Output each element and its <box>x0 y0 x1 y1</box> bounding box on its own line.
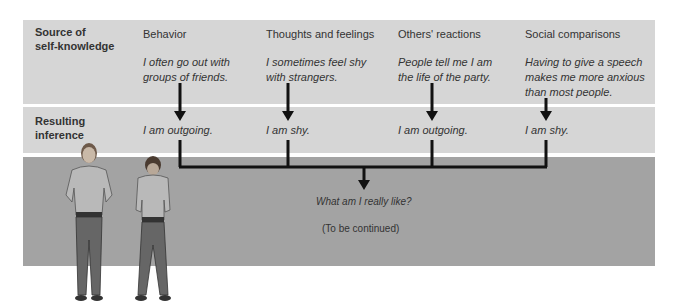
arrow-down-icon <box>540 111 552 121</box>
continuation-note: (To be continued) <box>322 223 399 234</box>
two-men-illustration <box>50 140 190 307</box>
arrow-down-icon <box>282 111 294 121</box>
arrow-down-icon <box>174 111 186 121</box>
outgoing-man-figure <box>66 143 112 301</box>
central-question: What am I really like? <box>316 196 412 207</box>
arrow-down-icon <box>358 180 370 190</box>
arrow-down-icon <box>426 111 438 121</box>
shy-man-figure <box>135 156 171 301</box>
